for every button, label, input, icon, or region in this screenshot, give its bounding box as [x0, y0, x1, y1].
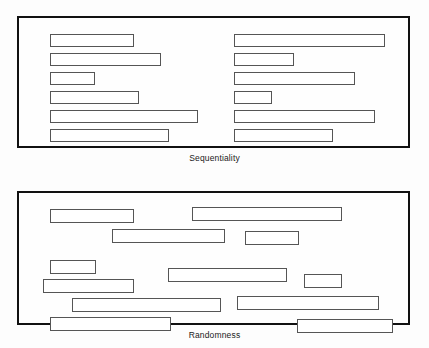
bar: [43, 279, 134, 293]
sequentiality-randomness-figure: Sequentiality Randomness: [0, 0, 429, 348]
bar: [50, 72, 95, 85]
bar: [50, 53, 161, 66]
bar: [234, 129, 333, 142]
bar: [50, 34, 134, 47]
bar: [192, 207, 342, 221]
bar: [234, 72, 355, 85]
bar: [50, 110, 198, 123]
bar: [50, 91, 139, 104]
bar: [237, 296, 379, 310]
bar: [50, 129, 169, 142]
bar: [245, 231, 299, 245]
bar: [50, 317, 171, 331]
bar: [234, 53, 294, 66]
bar: [72, 298, 221, 312]
bar: [168, 268, 287, 282]
bar: [50, 209, 134, 223]
caption-randomness: Randomness: [0, 330, 429, 340]
panel-randomness: [17, 191, 410, 325]
bar: [50, 260, 96, 274]
bar: [234, 91, 272, 104]
bar: [234, 110, 375, 123]
bar: [234, 34, 385, 47]
bar: [304, 274, 342, 288]
caption-sequentiality: Sequentiality: [0, 153, 429, 163]
panel-sequentiality: [17, 16, 410, 148]
bar: [112, 229, 225, 243]
